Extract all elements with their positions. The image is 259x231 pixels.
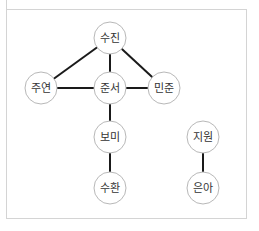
node-minjun[interactable]: 민준 <box>148 72 180 104</box>
node-junseo[interactable]: 준서 <box>94 72 126 104</box>
node-label: 수환 <box>100 182 120 195</box>
node-label: 민준 <box>154 82 174 95</box>
node-label: 은아 <box>193 182 213 195</box>
node-label: 준서 <box>100 82 120 95</box>
node-label: 지원 <box>193 131 213 144</box>
relationship-graph: 수진주연준서민준보미수환지원은아 <box>0 0 259 231</box>
node-bomi[interactable]: 보미 <box>94 121 126 153</box>
node-suhwan[interactable]: 수환 <box>94 172 126 204</box>
node-layer: 수진주연준서민준보미수환지원은아 <box>25 22 219 204</box>
edge-layer <box>41 38 203 188</box>
node-label: 보미 <box>100 131 120 144</box>
node-jiwon[interactable]: 지원 <box>187 121 219 153</box>
node-juyeon[interactable]: 주연 <box>25 72 57 104</box>
node-label: 수진 <box>100 32 120 45</box>
node-euna[interactable]: 은아 <box>187 172 219 204</box>
node-label: 주연 <box>31 82 51 95</box>
node-sujin[interactable]: 수진 <box>94 22 126 54</box>
